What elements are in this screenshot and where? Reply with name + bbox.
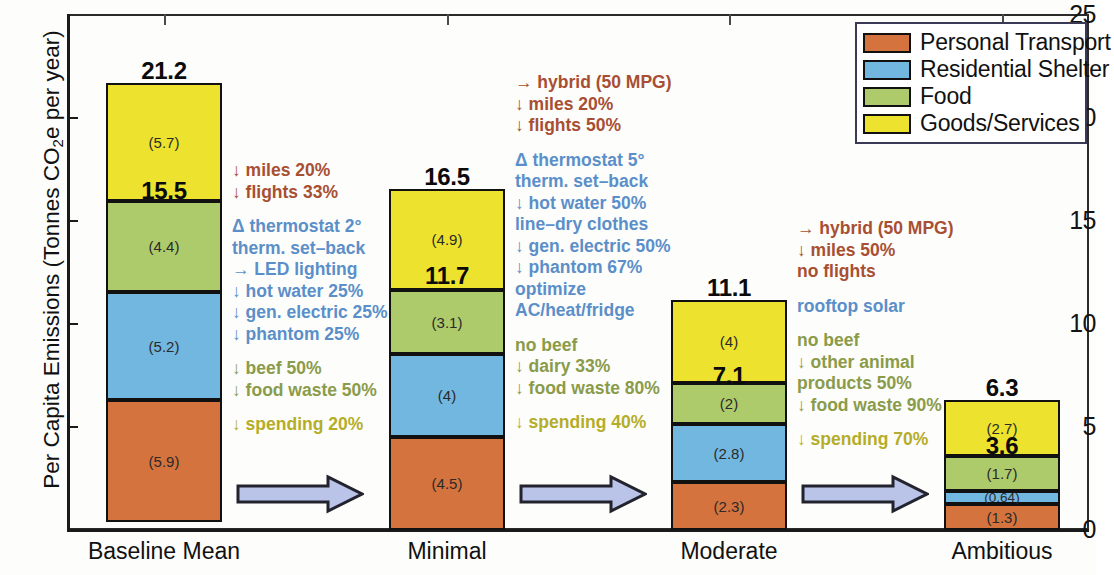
annotation-line: ↓ food waste 90% [797,395,954,417]
bar-segment-shelter[interactable]: (2.8) [671,424,787,482]
x-category-ambitious: Ambitious [890,538,1114,565]
bar-segment-transport[interactable]: (5.9) [106,400,222,522]
legend-label: Goods/Services [920,110,1080,137]
annotation-line: products 50% [797,373,954,395]
y-axis-label-tail: e per year) [39,30,64,139]
bar-segment-shelter[interactable]: (4) [389,354,505,437]
bar-midlabel-moderate: 7.1 [671,362,787,390]
legend-label: Personal Transport [920,29,1111,56]
annotation-line: line–dry clothes [515,214,672,236]
annotation-line: ↓ miles 50% [797,240,954,262]
x-category-baseline-mean: Baseline Mean [52,538,276,565]
annotation-line: Δ thermostat 2° [232,216,388,238]
segment-value: (2.8) [714,445,745,462]
legend-item-personal-transport[interactable]: Personal Transport [863,29,1078,56]
bar-ambitious[interactable]: (2.7) (1.7) (0.64) (1.3) [944,400,1060,530]
legend-item-goods-services[interactable]: Goods/Services [863,110,1078,137]
annotation-line: optimize [515,279,672,301]
annotation-line: → hybrid (50 MPG) [797,218,954,240]
bar-baseline-mean[interactable]: (5.7) (4.4) (5.2) (5.9) [106,83,222,530]
y-tick-label-15: 15 [1044,206,1096,235]
bar-segment-transport[interactable]: (1.3) [944,504,1060,530]
x-category-moderate: Moderate [617,538,841,565]
bar-segment-food[interactable]: (3.1) [389,290,505,354]
legend-swatch-residential-shelter [863,60,911,80]
segment-value: (4) [720,333,738,350]
annotation-line: ↓ hot water 25% [232,281,388,303]
y-tick-mark-10 [67,323,78,325]
segment-value: (3.1) [432,314,463,331]
annotation-line: ↓ gen. electric 25% [232,302,388,324]
bar-moderate[interactable]: (4) (2) (2.8) (2.3) [671,300,787,530]
annotation-line: ↓ spending 40% [515,412,672,434]
segment-value: (5.2) [149,338,180,355]
annotation-block-transport: ↓ miles 20% ↓ flights 33% [232,160,388,203]
y-axis-line [67,14,70,532]
segment-value: (5.7) [149,134,180,151]
segment-value: (2) [720,395,738,412]
bar-segment-shelter[interactable]: (5.2) [106,292,222,400]
annotation-line: ↓ flights 50% [515,115,672,137]
annotation-line: ↓ gen. electric 50% [515,236,672,258]
bar-midlabel-minimal: 11.7 [389,262,505,290]
annotation-line: ↓ food waste 50% [232,380,388,402]
legend: Personal Transport Residential Shelter F… [855,22,1087,144]
segment-value: (1.7) [987,465,1018,482]
annotation-line: ↓ phantom 25% [232,324,388,346]
legend-swatch-food [863,87,911,107]
bar-segment-transport[interactable]: (2.3) [671,482,787,530]
legend-swatch-goods-services [863,114,911,134]
annotation-line: Δ thermostat 5° [515,150,672,172]
annotation-block-transport: → hybrid (50 MPG) ↓ miles 20% ↓ flights … [515,72,672,137]
x-tick-top-moderate [729,14,731,25]
bar-segment-food[interactable]: (1.7) [944,456,1060,491]
bar-segment-food[interactable]: (4.4) [106,201,222,292]
annotation-column-moderate-to-ambitious: → hybrid (50 MPG) ↓ miles 50% no flights… [797,218,954,451]
annotation-line: → hybrid (50 MPG) [515,72,672,94]
y-tick-label-10: 10 [1044,309,1096,338]
annotation-line: AC/heat/fridge [515,300,672,322]
annotation-block-shelter: Δ thermostat 5° therm. set–back ↓ hot wa… [515,150,672,322]
segment-value: (1.3) [987,509,1018,526]
annotation-line: therm. set–back [232,238,388,260]
annotation-block-food: no beef ↓ other animal products 50% ↓ fo… [797,330,954,416]
annotation-line: ↓ food waste 80% [515,378,672,400]
segment-value: (4.4) [149,238,180,255]
annotation-column-minimal-to-moderate: → hybrid (50 MPG) ↓ miles 20% ↓ flights … [515,72,672,434]
bar-total-baseline-mean: 21.2 [106,57,222,85]
segment-value: (4) [438,387,456,404]
bar-midlabel-baseline-mean: 15.5 [106,177,222,205]
segment-value: (4.5) [432,475,463,492]
annotation-block-shelter: Δ thermostat 2° therm. set–back → LED li… [232,216,388,345]
annotation-line: no beef [797,330,954,352]
annotation-line: therm. set–back [515,171,672,193]
y-tick-mark-15 [67,220,78,222]
annotation-line: ↓ hot water 50% [515,193,672,215]
y-axis-label-main: Per Capita Emissions (Tonnes CO [39,147,64,488]
annotation-block-shelter: rooftop solar [797,296,954,318]
annotation-block-goods: ↓ spending 70% [797,429,954,451]
bar-segment-shelter[interactable]: (0.64) [944,491,1060,504]
bar-minimal[interactable]: (4.9) (3.1) (4) (4.5) [389,189,505,530]
transition-arrow-1 [236,474,364,514]
annotation-block-goods: ↓ spending 40% [515,412,672,434]
annotation-line: ↓ spending 70% [797,429,954,451]
annotation-line: ↓ miles 20% [515,94,672,116]
annotation-line: no beef [515,335,672,357]
bar-segment-transport[interactable]: (4.5) [389,437,505,530]
y-axis-label-subscript: 2 [49,139,66,147]
annotation-column-baseline-to-minimal: ↓ miles 20% ↓ flights 33% Δ thermostat 2… [232,160,388,436]
annotation-line: ↓ other animal [797,352,954,374]
annotation-line: ↓ flights 33% [232,182,388,204]
legend-item-residential-shelter[interactable]: Residential Shelter [863,56,1078,83]
y-tick-mark-5 [67,426,78,428]
transition-arrow-2 [519,474,647,514]
segment-value: (2.3) [714,498,745,515]
annotation-line: ↓ phantom 67% [515,257,672,279]
annotation-block-food: no beef ↓ dairy 33% ↓ food waste 80% [515,335,672,400]
annotation-line: ↓ beef 50% [232,358,388,380]
annotation-line: rooftop solar [797,296,954,318]
legend-item-food[interactable]: Food [863,83,1078,110]
bar-total-ambitious: 6.3 [944,374,1060,402]
annotation-line: ↓ spending 20% [232,414,388,436]
